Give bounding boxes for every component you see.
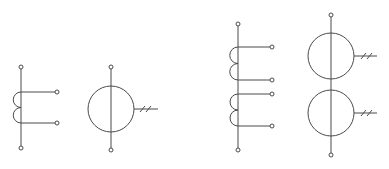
ct-circle-symbol-single: [88, 65, 158, 152]
ct-circle-symbol-double: [308, 13, 377, 157]
terminal-icon: [270, 124, 274, 128]
coil-winding-icon: [13, 92, 21, 123]
terminal-icon: [19, 65, 23, 69]
terminal-icon: [236, 148, 240, 152]
terminal-icon: [270, 92, 274, 96]
terminal-icon: [109, 148, 113, 152]
terminal-icon: [329, 153, 333, 157]
terminal-icon: [270, 45, 274, 49]
coil-winding-icon: [230, 47, 238, 80]
terminal-icon: [109, 65, 113, 69]
diagram-canvas: [0, 0, 389, 169]
tapped-coil-symbol-single: [13, 65, 59, 150]
terminal-icon: [236, 22, 240, 26]
coil-winding-icon: [230, 94, 238, 126]
terminal-icon: [55, 121, 59, 125]
terminal-icon: [55, 90, 59, 94]
tapped-coil-symbol-double: [230, 22, 274, 152]
terminal-icon: [19, 146, 23, 150]
terminal-icon: [270, 78, 274, 82]
terminal-icon: [329, 13, 333, 17]
